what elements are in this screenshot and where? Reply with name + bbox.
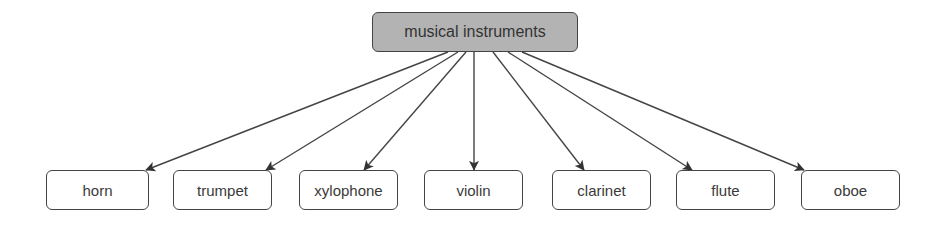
- edge-arrow-clarinet: [493, 52, 584, 170]
- leaf-node-clarinet[interactable]: clarinet: [552, 170, 651, 210]
- edge-arrow-oboe: [522, 52, 804, 170]
- leaf-node-label: violin: [456, 182, 490, 199]
- leaf-node-label: clarinet: [577, 182, 625, 199]
- leaf-node-label: oboe: [834, 182, 867, 199]
- leaf-node-trumpet[interactable]: trumpet: [173, 170, 272, 210]
- root-node-label: musical instruments: [404, 23, 545, 41]
- edge-arrow-trumpet: [266, 52, 458, 170]
- edge-arrow-xylophone: [364, 52, 466, 170]
- leaf-node-flute[interactable]: flute: [676, 170, 775, 210]
- leaf-node-label: horn: [82, 182, 112, 199]
- leaf-node-xylophone[interactable]: xylophone: [299, 170, 398, 210]
- root-node-musical-instruments[interactable]: musical instruments: [372, 12, 578, 52]
- edge-arrow-horn: [146, 52, 448, 170]
- leaf-node-violin[interactable]: violin: [424, 170, 523, 210]
- leaf-node-horn[interactable]: horn: [46, 170, 149, 210]
- leaf-node-label: flute: [711, 182, 739, 199]
- edges: [146, 52, 804, 170]
- leaf-node-label: trumpet: [197, 182, 248, 199]
- leaf-node-oboe[interactable]: oboe: [801, 170, 900, 210]
- leaf-node-label: xylophone: [314, 182, 382, 199]
